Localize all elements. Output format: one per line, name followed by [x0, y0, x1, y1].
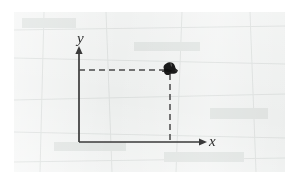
x-axis-arrowhead	[199, 138, 207, 145]
y-axis-label: y	[77, 31, 84, 46]
plot-area	[0, 0, 299, 187]
figure-root: x y	[0, 0, 299, 187]
plotted-point-marker	[162, 62, 178, 75]
x-axis-label: x	[209, 134, 216, 149]
y-axis-arrowhead	[75, 46, 82, 54]
